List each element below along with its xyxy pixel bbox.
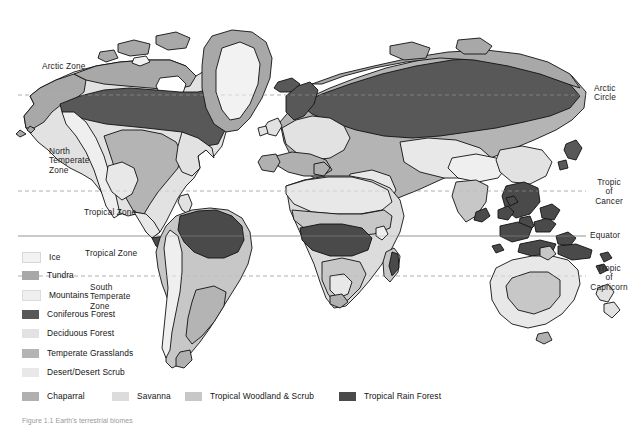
legend-temperate-grasslands: Temperate Grasslands [22,349,133,358]
legend-swatch-tropical-woodland-scrub [185,392,202,401]
legend-chaparral: Chaparral [22,392,85,401]
legend-coniferous-forest: Coniferous Forest [22,310,115,319]
legend-label-tundra: Tundra [47,271,74,280]
tropic-of-cancer-label: Tropic of Cancer [586,178,632,206]
legend-mountains: Mountains [22,290,89,301]
legend-label-savanna: Savanna [137,392,171,401]
legend-savanna: Savanna [112,392,171,401]
world-biome-map-figure: .ln { stroke:#111111; stroke-width:0.9; … [0,0,637,425]
map-legend: Ice Tundra Mountains Coniferous Forest D… [0,243,637,413]
legend-swatch-coniferous-forest [22,310,39,319]
arctic-circle-label: Arctic Circle [594,84,616,103]
figure-caption: Figure 1.1 Earth's terrestrial biomes [22,417,133,425]
legend-label-tropical-woodland-scrub: Tropical Woodland & Scrub [210,392,314,401]
legend-label-coniferous-forest: Coniferous Forest [47,310,115,319]
legend-swatch-savanna [112,392,129,401]
legend-label-tropical-rain-forest: Tropical Rain Forest [364,392,441,401]
legend-label-deciduous-forest: Deciduous Forest [47,329,114,338]
legend-swatch-tropical-rain-forest [339,392,356,401]
legend-label-ice: Ice [49,253,60,262]
tropical-zone-north-label: Tropical Zone [84,208,136,217]
legend-tropical-rain-forest: Tropical Rain Forest [339,392,441,401]
legend-ice: Ice [22,252,60,263]
legend-swatch-ice [22,252,41,263]
legend-swatch-tundra [22,271,39,280]
legend-label-temperate-grasslands: Temperate Grasslands [47,349,133,358]
legend-swatch-temperate-grasslands [22,349,39,358]
arctic-zone-label: Arctic Zone [42,62,86,71]
legend-swatch-mountains [22,290,41,301]
north-temperate-zone-label: North Temperate Zone [49,147,90,175]
legend-swatch-deciduous-forest [22,329,39,338]
legend-label-mountains: Mountains [49,291,89,300]
legend-swatch-desert-desert-scrub [22,368,39,377]
legend-label-chaparral: Chaparral [47,392,85,401]
legend-tundra: Tundra [22,271,74,280]
legend-swatch-chaparral [22,392,39,401]
legend-deciduous-forest: Deciduous Forest [22,329,114,338]
legend-desert-desert-scrub: Desert/Desert Scrub [22,368,125,377]
equator-label: Equator [590,231,620,240]
legend-label-desert-desert-scrub: Desert/Desert Scrub [47,368,125,377]
legend-tropical-woodland-scrub: Tropical Woodland & Scrub [185,392,314,401]
